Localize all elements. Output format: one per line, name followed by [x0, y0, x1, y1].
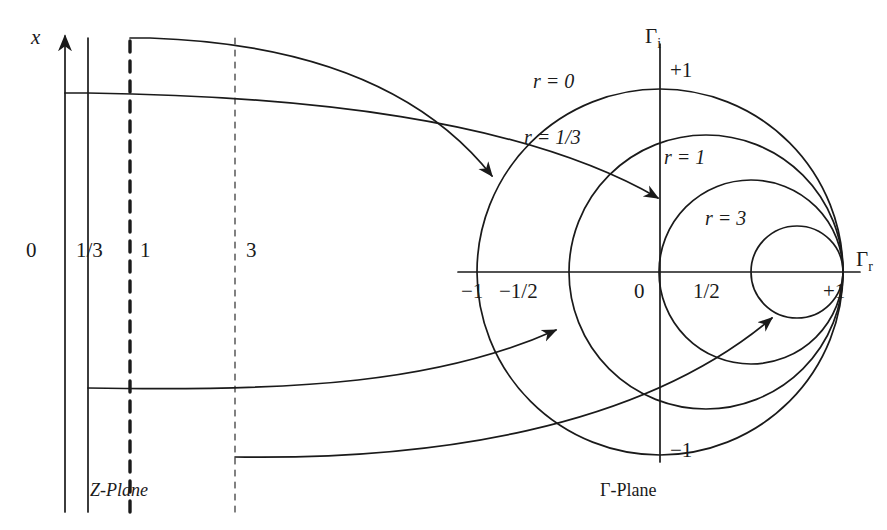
curve-label-r-0: r = 0: [533, 71, 574, 91]
mapping-arrow-top-outer: [130, 38, 492, 176]
gamma-real-tick-plus1: +1: [823, 281, 845, 302]
gamma-imag-axis-subscript: i: [657, 36, 661, 51]
gamma-imag-tick-minus1: −1: [670, 440, 692, 461]
z-plane-tick-1over3: 1/3: [76, 240, 103, 261]
gamma-plane-axes: [458, 44, 860, 462]
z-plane-x-axis-label: x: [31, 27, 40, 48]
curve-label-r-1: r = 1: [664, 147, 705, 167]
z-plane-caption: Z-Plane: [90, 481, 148, 499]
gamma-real-tick-minus1: −1: [461, 281, 483, 302]
figure-vector-layer: [0, 0, 887, 530]
smith-chart-mapping-figure: x 0 1/3 1 3 Z-Plane Γi Γr +1 −1 −1 −1/2 …: [0, 0, 887, 530]
z-plane-tick-3: 3: [246, 240, 257, 261]
z-plane-tick-0: 0: [26, 240, 37, 261]
gamma-real-tick-0: 0: [634, 281, 645, 302]
gamma-imag-axis-label: Γi: [645, 26, 661, 51]
gamma-real-tick-minus1over2: −1/2: [499, 281, 538, 302]
gamma-imag-axis-symbol: Γ: [645, 24, 657, 48]
curve-label-r-1over3: r = 1/3: [524, 127, 581, 147]
curve-label-r-3: r = 3: [705, 208, 746, 228]
z-plane-tick-1: 1: [140, 240, 151, 261]
z-plane-group: [65, 36, 235, 512]
z-plane-caption-text: Z-Plane: [90, 480, 148, 500]
mapping-arrow-bottom-outer: [88, 330, 556, 389]
gamma-real-tick-1over2: 1/2: [693, 281, 720, 302]
gamma-plane-caption: Γ-Plane: [600, 481, 656, 499]
gamma-real-axis-symbol: Γ: [856, 247, 868, 271]
mapping-arrow-bottom-inner: [235, 318, 772, 457]
gamma-real-axis-label: Γr: [856, 249, 873, 274]
gamma-imag-tick-plus1: +1: [670, 60, 692, 81]
gamma-real-axis-subscript: r: [868, 259, 873, 274]
